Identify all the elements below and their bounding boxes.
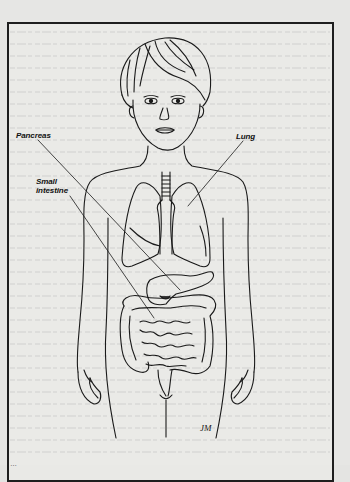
label-lung: Lung [236,132,255,141]
label-small-intestine-line1: Small [36,177,86,186]
artist-signature: JM [200,423,212,433]
label-pancreas: Pancreas [16,131,51,140]
head [121,38,211,150]
torso [77,146,255,438]
label-small-intestine: Small intestine [36,177,86,195]
leader-lines [38,140,243,318]
label-small-intestine-line2: intestine [36,186,86,195]
pancreas [147,272,214,305]
small-intestine [140,321,196,367]
figure-caption: … [10,460,335,466]
